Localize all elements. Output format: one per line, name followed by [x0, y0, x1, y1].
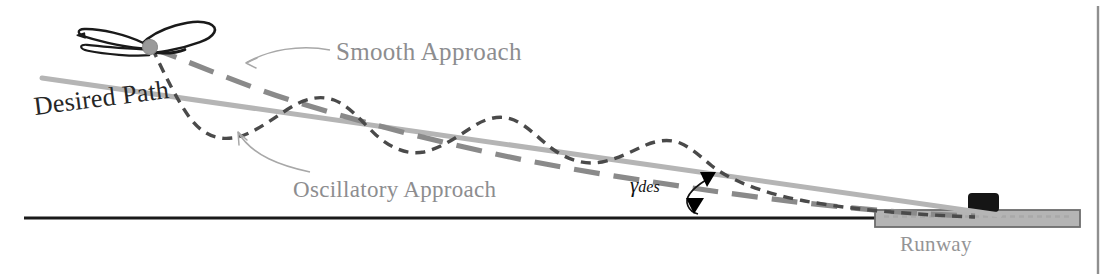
desired-path-line	[42, 78, 1000, 215]
flight-path-angle-label: γdes	[630, 173, 660, 198]
aircraft-icon	[76, 9, 217, 67]
oscillatory-approach-leader	[238, 132, 310, 172]
runway-label: Runway	[900, 232, 972, 257]
smooth-approach-leader	[246, 48, 330, 68]
gamma-subscript: des	[638, 178, 659, 195]
oscillatory-approach-label: Oscillatory Approach	[293, 177, 496, 203]
smooth-approach-path	[152, 48, 975, 216]
approach-trajectory-figure: Smooth Approach Oscillatory Approach Des…	[0, 0, 1115, 280]
smooth-approach-label: Smooth Approach	[336, 38, 522, 66]
